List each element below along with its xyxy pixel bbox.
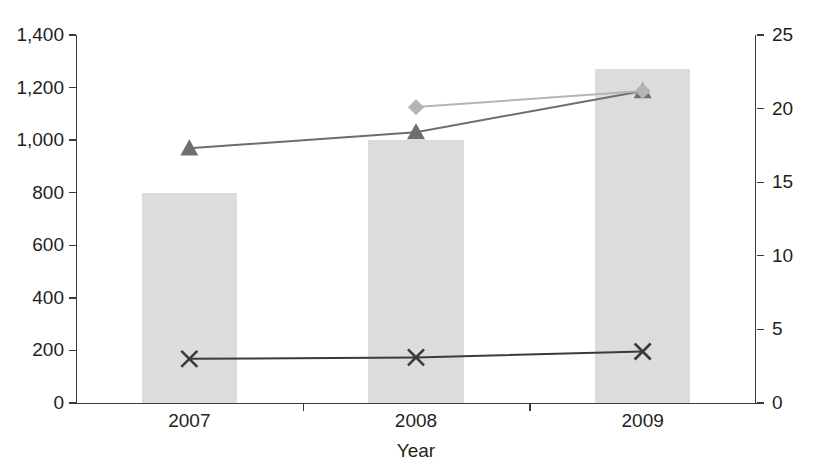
- line-series-layer: [0, 0, 832, 476]
- series-line-diamond: [416, 91, 643, 107]
- marker-diamond: [408, 99, 424, 115]
- chart-figure: 02004006008001,0001,2001,400 0510152025 …: [0, 0, 832, 476]
- x-axis-title: Year: [0, 440, 832, 462]
